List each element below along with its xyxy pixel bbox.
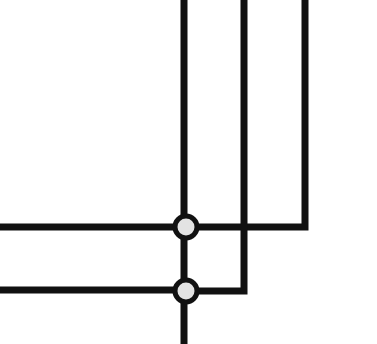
wire-junction-diagram [0, 0, 377, 344]
schematic-canvas [0, 0, 377, 344]
junction-node-lower [175, 280, 197, 302]
junction-node-upper [175, 216, 197, 238]
